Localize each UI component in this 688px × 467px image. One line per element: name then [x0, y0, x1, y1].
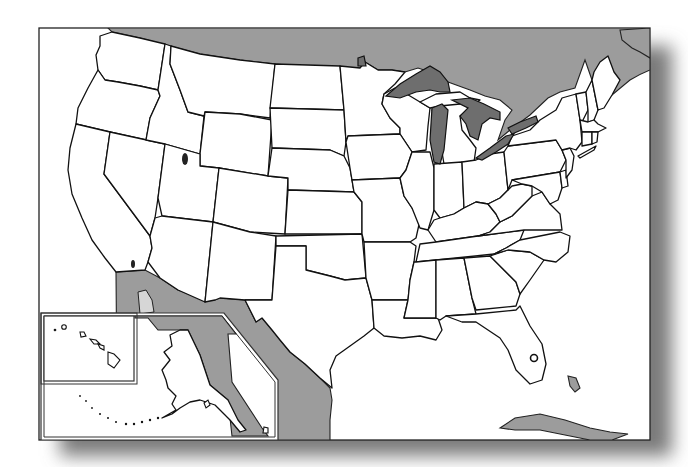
lake-of-the-woods: [358, 56, 366, 66]
inset-hawaii: [41, 313, 137, 384]
state-north-dakota: [270, 64, 344, 110]
state-colorado: [213, 168, 288, 234]
us-outline-map: Blank outline map of the United States: [0, 0, 688, 467]
state-arkansas: [364, 242, 416, 300]
state-wyoming: [200, 112, 272, 176]
state-iowa: [346, 134, 412, 180]
salton-sea: [131, 260, 135, 268]
state-connecticut: [582, 132, 592, 146]
state-indiana: [434, 162, 464, 218]
state-rhode-island: [592, 132, 598, 144]
state-kansas: [285, 190, 362, 234]
state-new-mexico: [205, 222, 276, 302]
great-salt-lake: [182, 153, 188, 165]
